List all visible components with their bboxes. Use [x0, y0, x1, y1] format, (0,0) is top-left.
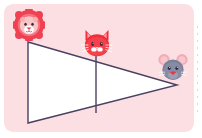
screenshot-stage: [0, 0, 202, 138]
cat-sticker: [81, 27, 113, 59]
lion-face-icon: [13, 9, 45, 41]
lion-sticker: [13, 9, 45, 41]
mouse-face-icon: [157, 52, 189, 84]
cat-face-icon: [81, 27, 113, 59]
mouse-sticker: [157, 52, 189, 84]
